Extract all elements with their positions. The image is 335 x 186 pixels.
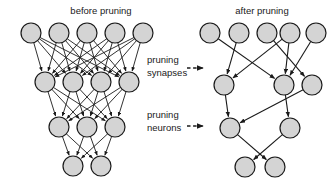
before-node-l3-n0 — [63, 156, 83, 176]
after-node-l1-n2 — [302, 75, 322, 95]
after-node-l2-n0 — [220, 118, 240, 138]
after-node-l2-n1 — [280, 118, 300, 138]
after-node-l0-n4 — [306, 23, 326, 43]
before-node-l1-n3 — [119, 72, 139, 92]
pruning-figure: before pruning after pruning pruning syn… — [0, 0, 335, 186]
after-node-l0-n3 — [280, 23, 300, 43]
before-node-l2-n1 — [77, 117, 97, 137]
stage-label-neurons-line1: pruning — [147, 109, 179, 120]
before-pruning-title: before pruning — [70, 5, 131, 16]
before-node-l2-n0 — [49, 117, 69, 137]
after-node-l1-n1 — [274, 75, 294, 95]
after-node-l1-n0 — [214, 75, 234, 95]
stage-label-neurons-line2: neurons — [147, 122, 182, 133]
after-node-l0-n2 — [257, 23, 277, 43]
before-node-l2-n2 — [105, 117, 125, 137]
before-node-l1-n1 — [63, 72, 83, 92]
after-node-l0-n1 — [229, 23, 249, 43]
network-pruning-diagram: before pruning after pruning pruning syn… — [0, 0, 335, 186]
before-node-l0-n2 — [77, 23, 97, 43]
stage-label-synapses-line1: pruning — [147, 54, 179, 65]
before-node-l1-n0 — [35, 72, 55, 92]
before-node-l1-n2 — [91, 72, 111, 92]
after-pruning-title: after pruning — [235, 5, 288, 16]
after-node-l3-n0 — [235, 157, 255, 177]
before-node-l0-n3 — [105, 23, 125, 43]
before-node-l0-n4 — [133, 23, 153, 43]
after-node-l3-n1 — [265, 157, 285, 177]
after-node-l0-n0 — [200, 23, 220, 43]
stage-label-synapses-line2: synapses — [147, 67, 187, 78]
before-node-l0-n0 — [21, 23, 41, 43]
before-node-l3-n1 — [91, 156, 111, 176]
before-node-l0-n1 — [49, 23, 69, 43]
